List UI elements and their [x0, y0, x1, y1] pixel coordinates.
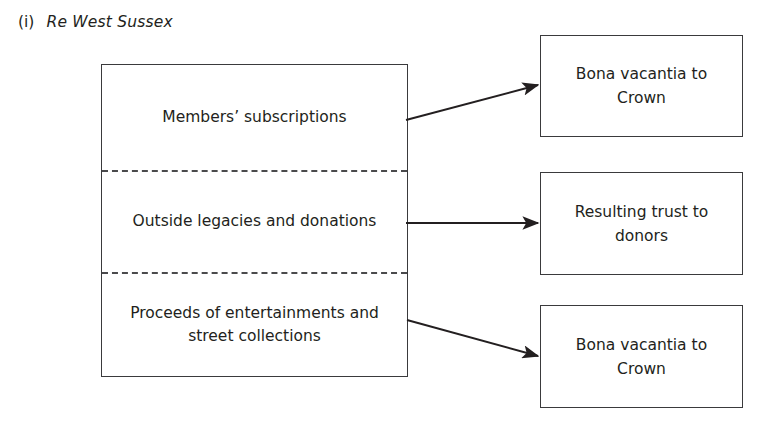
- caption-marker: (i): [18, 13, 34, 31]
- outcome-box-resulting-trust: Resulting trust to donors: [540, 172, 743, 275]
- source-cell-members-subscriptions: Members’ subscriptions: [102, 65, 407, 170]
- figure-caption: (i) Re West Sussex: [18, 13, 173, 31]
- fund-sources-box: Members’ subscriptions Outside legacies …: [101, 64, 408, 377]
- caption-case-name: Re West Sussex: [46, 13, 173, 31]
- outcome-box-bona-vacantia-1: Bona vacantia to Crown: [540, 35, 743, 137]
- outcome-box-bona-vacantia-2: Bona vacantia to Crown: [540, 305, 743, 408]
- source-cell-proceeds-entertainments: Proceeds of entertainments and street co…: [102, 272, 407, 378]
- connector-members-to-bona-vacantia: [406, 85, 538, 120]
- source-cell-outside-legacies: Outside legacies and donations: [102, 170, 407, 272]
- connector-proceeds-to-bona-vacantia: [407, 320, 538, 356]
